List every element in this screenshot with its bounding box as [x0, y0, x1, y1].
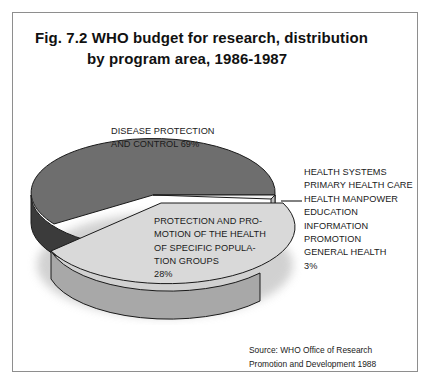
- figure-title-line-2: by program area, 1986-1987: [35, 48, 395, 69]
- legend-general-health: HEALTH SYSTEMS PRIMARY HEALTH CARE HEALT…: [304, 166, 413, 273]
- source-line-1: Source: WHO Office of Research: [249, 345, 372, 355]
- figure-frame: Fig. 7.2 WHO budget for research, distri…: [12, 12, 418, 372]
- slice-label-disease-protection: DISEASE PROTECTION AND CONTROL 69%: [111, 125, 215, 152]
- slice-label-health-promotion: PROTECTION AND PRO- MOTION OF THE HEALTH…: [154, 215, 266, 281]
- source-note: Source: WHO Office of Research Promotion…: [249, 344, 376, 371]
- source-line-2: Promotion and Development 1988: [249, 359, 376, 369]
- figure-title-line-1: Fig. 7.2 WHO budget for research, distri…: [35, 29, 368, 46]
- figure-title: Fig. 7.2 WHO budget for research, distri…: [35, 27, 395, 70]
- slice-general-top: [153, 195, 275, 199]
